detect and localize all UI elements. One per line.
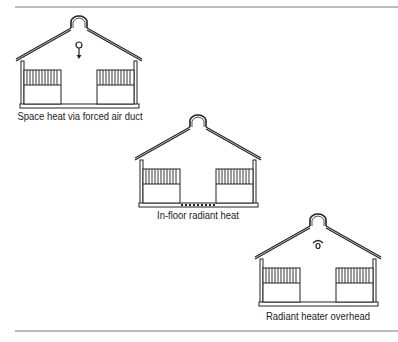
caption-overhead: Radiant heater overhead xyxy=(266,310,370,322)
caption-in-floor: In-floor radiant heat xyxy=(157,209,239,221)
barn-overhead xyxy=(255,214,381,306)
heating-diagram xyxy=(0,0,398,342)
caption-forced-air: Space heat via forced air duct xyxy=(17,110,142,122)
in-floor-radiant-icon xyxy=(181,204,215,206)
barn-in-floor xyxy=(135,115,261,207)
overhead-radiant-heater-icon xyxy=(313,241,323,249)
barn-forced-air xyxy=(16,16,142,108)
forced-air-duct-icon xyxy=(76,42,82,59)
